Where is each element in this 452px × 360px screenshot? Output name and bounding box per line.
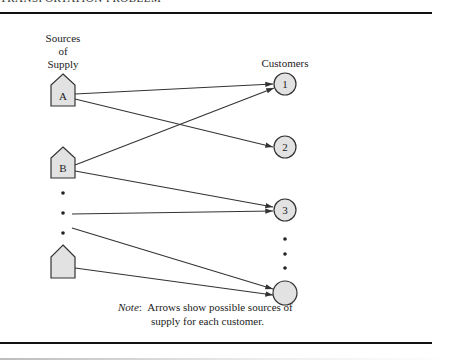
source-label: B <box>59 162 66 174</box>
customer-node-1: 1 <box>274 73 296 95</box>
ellipsis-dot <box>283 266 287 270</box>
arrow-B-to-3 <box>75 171 273 207</box>
ellipsis-dot <box>283 237 287 241</box>
sources-title-line-3: Supply <box>47 58 79 70</box>
arrow-A-to-1 <box>75 84 273 94</box>
ellipsis-dot <box>61 191 65 195</box>
sources-title-line-2: of <box>58 45 68 57</box>
note-line-1: Arrows show possible sources of <box>147 301 292 313</box>
ellipsis-dot <box>61 211 65 215</box>
source-label: A <box>59 90 67 102</box>
source-node-N <box>51 245 75 278</box>
customer-node-2: 2 <box>274 136 296 158</box>
arrows-layer <box>72 84 274 295</box>
arrow-dots-to-N <box>72 228 273 289</box>
customers-layer: 123 <box>273 73 297 305</box>
arrow-N-to-N <box>75 268 273 295</box>
source-node-A: A <box>51 74 75 106</box>
sources-layer: AB <box>51 74 75 278</box>
ellipsis-dot <box>283 252 287 256</box>
note-text: Note: Arrows show possible sources of su… <box>118 300 293 328</box>
note-line-2: supply for each customer. <box>118 314 293 328</box>
sources-title-line-1: Sources <box>46 32 81 44</box>
source-node-B: B <box>51 147 75 178</box>
customer-node-3: 3 <box>274 199 296 221</box>
note-key: Note <box>118 301 139 313</box>
customers-title: Customers <box>261 57 308 69</box>
arrow-B-to-1 <box>75 88 274 165</box>
customer-label: 1 <box>282 78 288 90</box>
arrow-dots-to-3 <box>72 211 273 214</box>
customer-label: 3 <box>282 204 288 216</box>
house-icon <box>51 245 75 278</box>
bottom-rule <box>0 342 432 344</box>
arrow-A-to-2 <box>75 99 273 147</box>
ellipsis-dot <box>61 231 65 235</box>
customer-label: 2 <box>282 141 288 153</box>
